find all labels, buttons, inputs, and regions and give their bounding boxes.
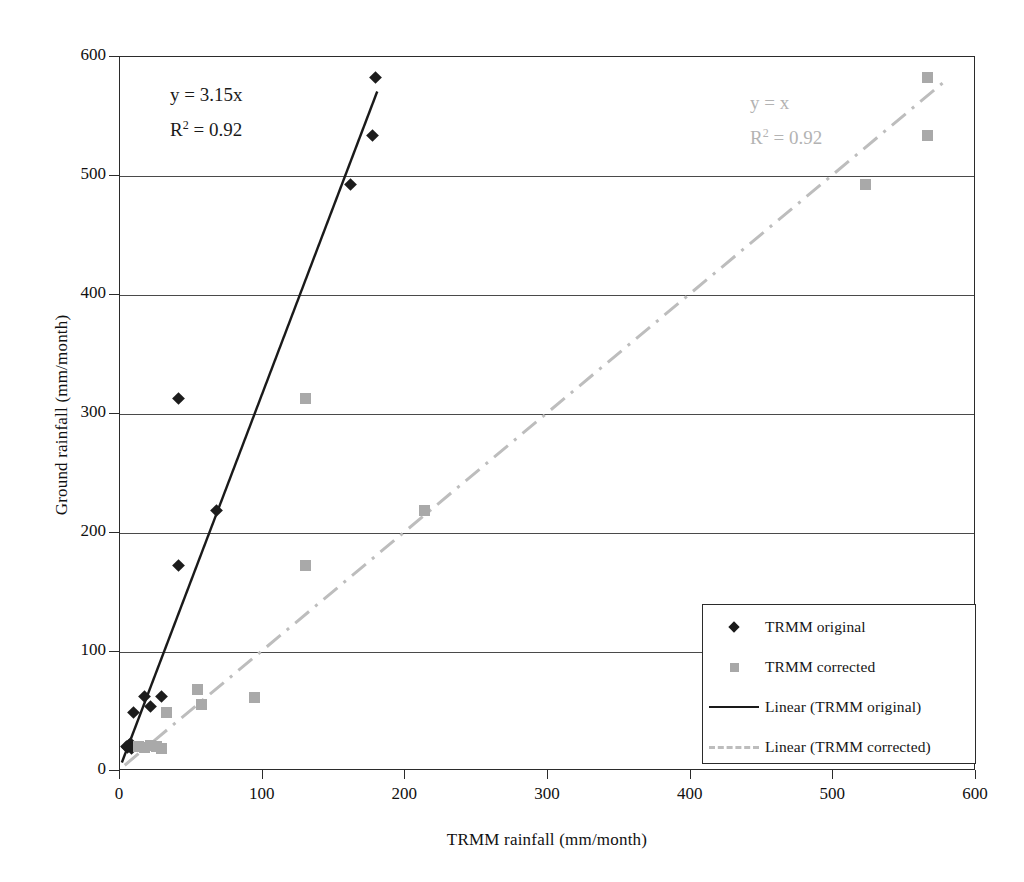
y-tick — [109, 770, 119, 771]
x-tick-label: 100 — [232, 784, 292, 804]
y-tick — [109, 56, 119, 57]
square-marker-icon-glyph — [730, 663, 739, 672]
y-tick — [109, 175, 119, 176]
y-tick-label: 600 — [58, 45, 106, 65]
data-point-marker — [300, 560, 311, 571]
legend-item[interactable]: Linear (TRMM original) — [703, 687, 975, 727]
annotation-corrected-rsquared: R2 = 0.92 — [750, 118, 822, 153]
solid-line-icon — [703, 706, 765, 708]
x-tick-label: 600 — [945, 784, 1005, 804]
legend-item-label: Linear (TRMM original) — [765, 698, 921, 716]
x-axis-title: TRMM rainfall (mm/month) — [119, 830, 975, 850]
y-tick — [109, 532, 119, 533]
data-point-marker — [922, 130, 933, 141]
y-axis-title: Ground rainfall (mm/month) — [52, 65, 72, 765]
data-point-marker — [249, 692, 260, 703]
x-tick-label: 500 — [802, 784, 862, 804]
gridline — [120, 414, 974, 415]
x-tick — [547, 770, 548, 779]
r-label: R — [750, 127, 763, 148]
data-point-marker — [196, 699, 207, 710]
data-point-marker — [419, 505, 430, 516]
solid-line-icon-glyph — [709, 706, 759, 708]
legend-item-label: Linear (TRMM corrected) — [765, 738, 931, 756]
annotation-original: y = 3.15x R2 = 0.92 — [170, 80, 242, 145]
data-point-marker — [922, 72, 933, 83]
gridline — [120, 295, 974, 296]
data-point-marker — [161, 707, 172, 718]
annotation-corrected-equation: y = x — [750, 88, 822, 118]
dashdot-line-icon-glyph — [709, 746, 759, 749]
data-point-marker — [156, 743, 167, 754]
y-axis-spine — [119, 56, 120, 770]
x-tick-label: 400 — [660, 784, 720, 804]
x-tick — [119, 770, 120, 779]
y-tick — [109, 413, 119, 414]
diamond-marker-icon-glyph — [728, 621, 739, 632]
legend-item[interactable]: TRMM original — [703, 607, 975, 647]
legend-item[interactable]: Linear (TRMM corrected) — [703, 727, 975, 767]
x-tick-label: 200 — [374, 784, 434, 804]
legend-item-label: TRMM corrected — [765, 658, 875, 676]
data-point-marker — [300, 393, 311, 404]
gridline — [120, 533, 974, 534]
gridline — [120, 176, 974, 177]
annotation-original-rsquared: R2 = 0.92 — [170, 110, 242, 145]
y-tick — [109, 651, 119, 652]
diamond-marker-icon — [703, 623, 765, 631]
x-tick — [404, 770, 405, 779]
dashdot-line-icon — [703, 746, 765, 749]
scatter-chart-figure: 0100200300400500600 0100200300400500600 … — [0, 0, 1024, 882]
r-value: = 0.92 — [189, 119, 242, 140]
annotation-original-equation: y = 3.15x — [170, 80, 242, 110]
legend-item[interactable]: TRMM corrected — [703, 647, 975, 687]
data-point-marker — [192, 684, 203, 695]
square-marker-icon — [703, 663, 765, 672]
annotation-corrected: y = x R2 = 0.92 — [750, 88, 822, 153]
legend-item-label: TRMM original — [765, 618, 866, 636]
data-point-marker — [860, 179, 871, 190]
r-label: R — [170, 119, 183, 140]
x-tick — [690, 770, 691, 779]
x-tick — [262, 770, 263, 779]
x-tick-label: 300 — [517, 784, 577, 804]
x-tick-label: 0 — [89, 784, 149, 804]
legend: TRMM originalTRMM correctedLinear (TRMM … — [702, 604, 976, 764]
x-tick — [832, 770, 833, 779]
r-value: = 0.92 — [769, 127, 822, 148]
x-tick — [975, 770, 976, 779]
y-tick — [109, 294, 119, 295]
